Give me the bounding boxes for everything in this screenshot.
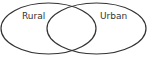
rural-set-ellipse bbox=[1, 3, 96, 54]
venn-diagram: Rural Urban bbox=[0, 0, 152, 57]
rural-label: Rural bbox=[22, 11, 45, 21]
urban-label: Urban bbox=[100, 11, 127, 21]
